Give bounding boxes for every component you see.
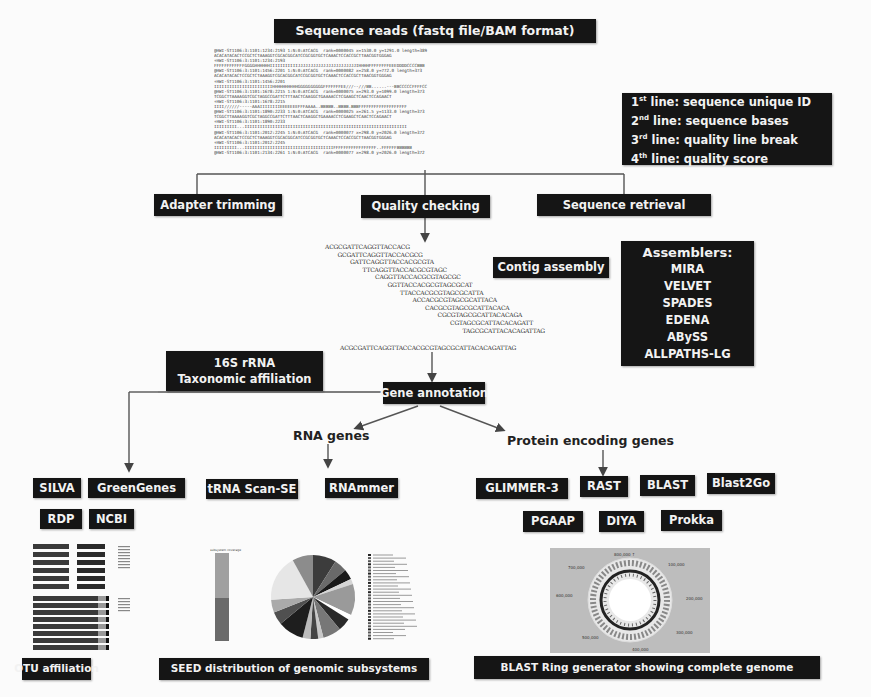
quality-checking-box: Quality checking <box>361 195 490 218</box>
contig-assembly-box: Contig assembly <box>493 257 609 278</box>
legend-line-3: 3rd line: quality line break <box>631 129 798 148</box>
fastq-sample-text: @HWI-ST1106:3:1101:1234:2193 1:N:0:ATCAC… <box>214 48 549 155</box>
tool-trna-scan-se: tRNA Scan-SE <box>206 479 298 499</box>
tool-diya: DIYA <box>599 511 644 532</box>
svg-text:500,000: 500,000 <box>582 635 599 640</box>
contig-read: GCGATTCAGGTTACCACGCG <box>338 251 423 258</box>
otu-affiliation-box: OTU affiliation <box>22 658 91 680</box>
seed-distribution-box: SEED distribution of genomic subsystems <box>159 658 429 680</box>
tool-glimmer-3: GLIMMER-3 <box>476 478 568 499</box>
tool-pgaap: PGAAP <box>523 511 583 532</box>
assembler-mira: MIRA <box>671 261 704 278</box>
contig-read: GATTCAGGTTACCACGCGTA <box>350 258 434 265</box>
adapter-trimming-box: Adapter trimming <box>154 194 282 216</box>
contig-read: CGTAGCGCATTACACAGATT <box>450 319 533 326</box>
tool-silva: SILVA <box>33 478 81 498</box>
legend-line-2: 2nd line: sequence bases <box>631 110 789 129</box>
contig-read: GGTTACCACGCGTAGCGCAT <box>388 281 473 288</box>
blast-ring-generator-box: BLAST Ring generator showing complete ge… <box>474 656 820 679</box>
tool-blast2go: Blast2Go <box>707 473 775 494</box>
assembler-velvet: VELVET <box>664 278 711 295</box>
16s-rrna-label: 16S rRNA <box>214 355 275 371</box>
assemblers-title: Assemblers: <box>643 244 733 261</box>
svg-text:subsystem coverage: subsystem coverage <box>210 548 241 552</box>
svg-text:100,000: 100,000 <box>668 562 685 567</box>
gene-annotation-box: Gene annotation <box>383 382 485 404</box>
contig-read: ACCACGCGTAGCGCATTACA <box>413 296 497 303</box>
tool-greengenes: GreenGenes <box>88 478 185 498</box>
assemblers-box: Assemblers: MIRA VELVET SPADES EDENA ABy… <box>621 241 754 366</box>
contig-read: TTACCACGCGTAGCGCATTA <box>400 289 483 296</box>
svg-text:600,000: 600,000 <box>556 593 573 598</box>
tool-ncbi: NCBI <box>89 509 134 529</box>
assembler-edena: EDENA <box>666 312 710 329</box>
legend-line-4: 4th line: quality score <box>631 148 768 167</box>
contig-read: ACGCGATTCAGGTTACCACG <box>325 243 410 250</box>
16s-rrna-taxonomy-box: 16S rRNA Taxonomic affiliation <box>166 351 323 391</box>
tool-prokka: Prokka <box>661 510 722 531</box>
svg-text:200,000: 200,000 <box>686 596 703 601</box>
sequence-retrieval-box: Sequence retrieval <box>537 194 711 216</box>
contig-consensus: ACGCGATTCAGGTTACCACGCGTAGCGCATTACACAGATT… <box>340 344 516 351</box>
seed-pie-chart-thumbnail: subsystem coverage <box>210 548 480 643</box>
legend-line-1: 1st line: sequence unique ID <box>631 91 811 110</box>
contig-read: CACGCGTAGCGCATTACACA <box>425 304 509 311</box>
protein-encoding-genes-label: Protein encoding genes <box>507 433 674 448</box>
assembler-allpaths-lg: ALLPATHS-LG <box>644 346 730 363</box>
svg-text:400,000: 400,000 <box>632 647 649 652</box>
svg-text:800,000 ↑: 800,000 ↑ <box>614 552 635 557</box>
rna-genes-label: RNA genes <box>293 428 369 443</box>
svg-text:300,000: 300,000 <box>676 630 693 635</box>
contig-read: CAGGTTACCACGCGTAGCGC <box>375 273 461 280</box>
contig-read: TAGCGCATTACACAGATTAG <box>463 327 545 334</box>
tool-rnammer: RNAmmer <box>325 478 398 498</box>
assembler-spades: SPADES <box>662 295 712 312</box>
contig-read: CGCGTAGCGCATTACACAGA <box>438 311 523 318</box>
sequence-reads-title: Sequence reads (fastq file/BAM format) <box>274 19 596 43</box>
otu-bar-chart-thumbnail <box>33 540 133 650</box>
blast-ring-thumbnail: 800,000 ↑ 100,000 200,000 300,000 400,00… <box>550 548 710 653</box>
tool-rast: RAST <box>580 476 628 497</box>
tool-blast: BLAST <box>640 475 695 496</box>
assembler-abyss: ABySS <box>667 329 708 346</box>
taxonomic-affiliation-label: Taxonomic affiliation <box>177 371 311 387</box>
tool-rdp: RDP <box>40 509 82 529</box>
fastq-line-legend: 1st line: sequence unique ID 2nd line: s… <box>622 93 832 165</box>
svg-text:700,000: 700,000 <box>568 565 585 570</box>
contig-read: TTCAGGTTACCACGCGTAGC <box>363 266 447 273</box>
